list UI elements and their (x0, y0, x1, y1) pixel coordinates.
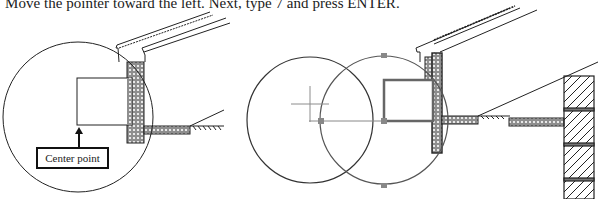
left-figure: Center point (3, 12, 230, 192)
crosshair-cursor-icon (291, 86, 329, 122)
center-point-label: Center point (45, 152, 100, 164)
ground-hatch-left (190, 110, 224, 130)
grip-center (318, 118, 324, 124)
grip-quadrant-top (381, 53, 387, 58)
window-rectangle-left (77, 78, 132, 125)
right-figure (247, 6, 598, 199)
grip-quadrant-left (381, 118, 387, 124)
cad-illustration: Center point (0, 0, 598, 199)
window-rectangle-right (384, 80, 433, 121)
center-point-arrow (75, 127, 83, 148)
slab-right-2 (509, 118, 564, 126)
brick-wall (564, 76, 594, 199)
grip-quadrant-bottom (381, 183, 387, 188)
roof-left (116, 12, 230, 62)
